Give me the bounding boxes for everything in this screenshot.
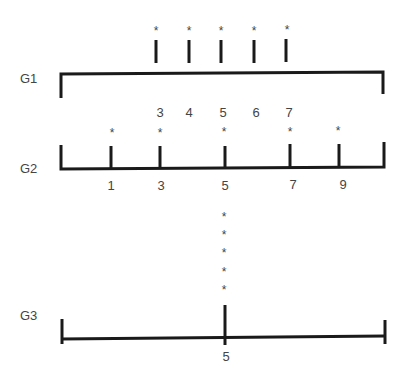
g1-bracket [61,72,383,98]
g1-value: 6 [252,105,259,120]
g2-value: 9 [339,177,346,192]
g2-value: 5 [221,178,228,193]
g2-value: 1 [107,178,114,193]
group-label-g1: G1 [20,71,37,86]
g2-marker: * [336,124,341,138]
g2-value: 3 [157,178,164,193]
g3-marker: * [222,246,227,260]
g3-marker: * [222,228,227,242]
g3-value: 5 [222,349,229,364]
g3-baseline [61,336,385,339]
g2-marker: * [110,126,115,140]
g1-value: 3 [156,105,163,120]
g3-marker: * [222,283,227,297]
g1-marker: * [154,24,159,38]
dot-plot-diagram: G1 * * * * * 3 4 5 6 7 G2 * * * * * 1 3 … [0,0,406,377]
g2-marker: * [222,125,227,139]
g2-bracket [61,142,384,169]
group-label-g2: G2 [20,161,37,176]
g1-value: 5 [219,105,226,120]
g2-value: 7 [289,177,296,192]
g2-marker: * [288,125,293,139]
group-g2: G2 * * * * * 1 3 5 7 9 [20,124,384,193]
group-g1: G1 * * * * * 3 4 5 6 7 [20,23,383,120]
g3-marker: * [222,265,227,279]
g1-marker: * [187,24,192,38]
group-label-g3: G3 [20,308,37,323]
g1-value: 4 [185,105,192,120]
g3-marker: * [222,210,227,224]
g1-marker: * [219,24,224,38]
g1-marker: * [252,24,257,38]
g1-value: 7 [285,105,292,120]
g1-marker: * [285,23,290,37]
g2-marker: * [158,126,163,140]
group-g3: G3 * * * * * 5 [20,210,385,364]
